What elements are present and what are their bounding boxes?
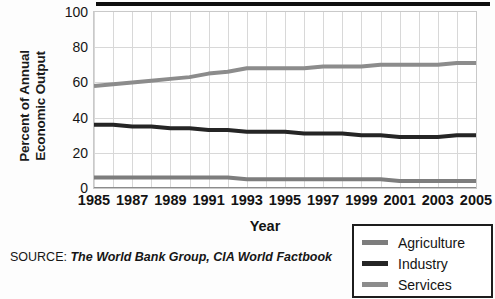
y-axis-title-line-1: Percent of Annual [17, 50, 33, 162]
x-tick-label: 1989 [154, 192, 186, 208]
x-tick-label: 1991 [192, 192, 224, 208]
legend-swatch-icon [362, 240, 388, 245]
legend-swatch-icon [362, 282, 388, 287]
x-tick-label: 1993 [231, 192, 263, 208]
plot-area [93, 11, 477, 189]
chart-legend: AgricultureIndustryServices [352, 224, 493, 298]
legend-item-label: Agriculture [398, 235, 465, 251]
legend-swatch-icon [362, 261, 388, 266]
y-tick-label: 80 [72, 39, 88, 55]
x-tick-label: 2005 [460, 192, 492, 208]
legend-item-label: Industry [398, 256, 448, 272]
legend-item-label: Services [398, 277, 452, 293]
legend-item: Industry [362, 253, 491, 274]
y-tick-label: 20 [72, 145, 88, 161]
x-tick-label: 1997 [307, 192, 339, 208]
x-tick-label: 1995 [269, 192, 301, 208]
x-tick-label: 2003 [422, 192, 454, 208]
y-axis-title-line-2: Economic Output [33, 51, 49, 161]
x-tick-label: 1987 [116, 192, 148, 208]
x-tick-label: 1999 [345, 192, 377, 208]
title-bar-rule [96, 2, 490, 6]
y-axis-title: Percent of Annual Economic Output [13, 11, 53, 201]
y-tick-label: 100 [65, 4, 88, 20]
x-tick-label: 1985 [78, 192, 110, 208]
x-tick-label: 2001 [383, 192, 415, 208]
source-note: SOURCE: The World Bank Group, CIA World … [10, 250, 332, 264]
y-tick-label: 60 [72, 74, 88, 90]
source-reference: The World Bank Group, CIA World Factbook [70, 250, 332, 264]
x-axis-tick-labels: 1985198719891991199319951997199920012003… [93, 192, 477, 212]
gridlines [94, 12, 476, 188]
legend-item: Services [362, 274, 491, 295]
plot-svg [94, 12, 476, 188]
chart-figure: Percent of Annual Economic Output 020406… [0, 0, 495, 299]
y-tick-label: 40 [72, 110, 88, 126]
legend-item: Agriculture [362, 232, 491, 253]
y-axis-tick-labels: 020406080100 [52, 11, 88, 189]
source-label: SOURCE: [10, 250, 67, 264]
